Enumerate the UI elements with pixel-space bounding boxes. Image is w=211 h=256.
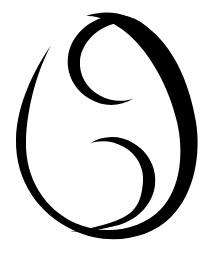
- cancer-zodiac-symbol: [0, 0, 211, 256]
- symbol-canvas: [0, 0, 211, 256]
